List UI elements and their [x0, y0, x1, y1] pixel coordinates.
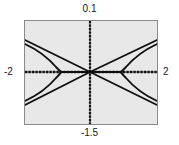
plot-figure: 0.1 -1.5 -2 2 [0, 0, 179, 145]
plot-canvas [0, 0, 179, 145]
